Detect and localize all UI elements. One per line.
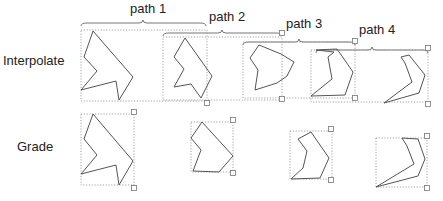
corner-handle-icon: [425, 186, 430, 191]
corner-handle-icon: [329, 127, 334, 132]
corner-handle-icon: [329, 178, 334, 183]
corner-handle-icon: [231, 171, 236, 176]
interpolate-shape-3: [250, 45, 294, 90]
corner-handle-icon: [205, 101, 210, 106]
interpolate-shape-2: [174, 38, 212, 98]
corner-handle-icon: [426, 46, 431, 51]
row-label-grade: Grade: [17, 139, 53, 154]
corner-handle-icon: [280, 97, 285, 102]
corner-handle-icon: [231, 118, 236, 123]
diagram-canvas: Interpolate Grade path 1 path 2 path 3 p…: [0, 0, 443, 201]
corner-handle-icon: [426, 102, 431, 107]
grade-shape-3: [291, 132, 329, 179]
corner-handle-icon: [132, 186, 137, 191]
interpolate-shape-4: [311, 49, 353, 96]
path-label-4: path 4: [359, 22, 395, 37]
grade-shape-2: [191, 122, 233, 172]
interpolate-shape-1: [81, 31, 133, 100]
corner-handle-icon: [353, 96, 358, 101]
corner-handle-icon: [132, 110, 137, 115]
grade-bounding-box: [376, 138, 427, 187]
row-label-interpolate: Interpolate: [3, 53, 64, 68]
brace-path-2: [163, 30, 282, 36]
corner-handle-icon: [425, 134, 430, 139]
grade-shape-4: [376, 138, 425, 187]
path-label-3: path 3: [286, 16, 322, 31]
interpolate-bounding-box: [81, 30, 207, 101]
brace-path-1: [81, 20, 206, 26]
corner-handle-icon: [280, 31, 285, 36]
grade-shape-1: [81, 114, 133, 185]
grade-bounding-box: [290, 131, 332, 179]
path-label-2: path 2: [209, 9, 245, 24]
path-label-1: path 1: [130, 1, 166, 16]
corner-handle-icon: [353, 39, 358, 44]
interpolate-shape-5: [384, 55, 425, 103]
interpolate-bounding-box: [163, 37, 282, 100]
